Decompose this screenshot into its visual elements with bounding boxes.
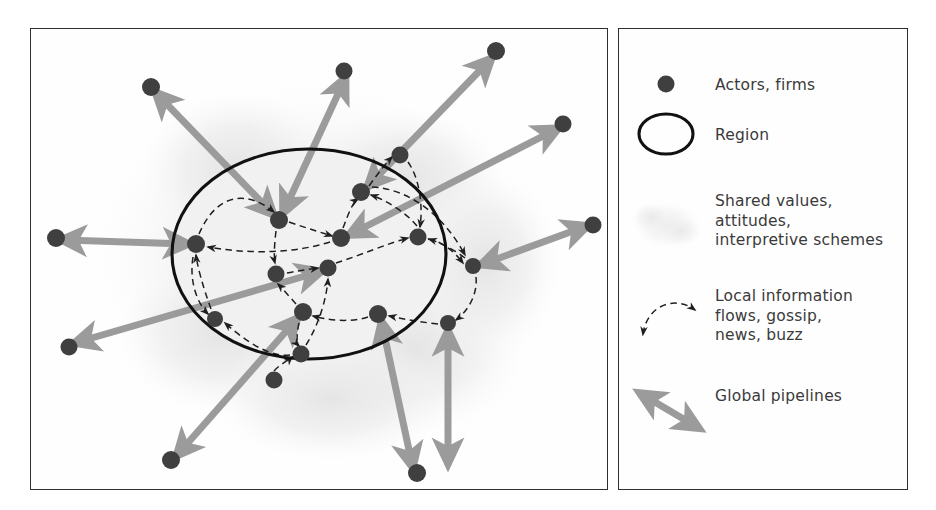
actor-node-o9	[162, 451, 180, 469]
actor-node-o1	[142, 78, 160, 96]
actor-node-i4	[332, 229, 350, 247]
actor-node-i2	[352, 183, 370, 201]
legend-pipeline-arrow	[643, 395, 697, 427]
actor-node-i1	[270, 211, 288, 229]
actor-node-i13	[465, 258, 481, 274]
actor-node-i10	[369, 305, 387, 323]
actor-node-i7	[268, 266, 285, 283]
legend-canvas	[619, 29, 907, 489]
actor-node-i9	[294, 303, 312, 321]
legend-region-ellipse	[639, 114, 693, 154]
actor-node-o5	[585, 217, 602, 234]
actor-node-i11	[207, 311, 223, 327]
actor-node-o8	[266, 372, 283, 389]
pipeline-o6-i6	[65, 240, 186, 244]
actor-node-o10	[408, 464, 426, 482]
legend-panel: Actors, firms Region Shared values, atti…	[618, 28, 908, 490]
diagram-canvas	[31, 29, 607, 489]
actor-node-i12	[293, 346, 310, 363]
legend-actors-dot	[658, 76, 675, 93]
legend-buzz-arrow	[643, 303, 695, 334]
actor-node-o4	[555, 116, 572, 133]
actor-node-i5	[410, 229, 427, 246]
legend-label-actors: Actors, firms	[715, 76, 815, 96]
legend-shared-cloud	[631, 201, 703, 249]
legend-label-local-buzz: Local information flows, gossip, news, b…	[715, 287, 853, 346]
legend-label-global-pipelines: Global pipelines	[715, 387, 842, 407]
actor-node-o6	[47, 229, 65, 247]
legend-label-shared-values: Shared values, attitudes, interpretive s…	[715, 192, 883, 251]
actor-node-i14	[440, 315, 456, 331]
actor-node-i8	[320, 260, 337, 277]
figure-root: Actors, firms Region Shared values, atti…	[0, 0, 936, 510]
legend-label-region: Region	[715, 126, 769, 146]
actor-node-o3	[487, 42, 505, 60]
actor-node-o2	[336, 63, 353, 80]
actor-node-i3	[392, 147, 409, 164]
actor-node-i6	[187, 235, 205, 253]
actor-node-o7	[61, 339, 78, 356]
diagram-panel	[30, 28, 608, 490]
